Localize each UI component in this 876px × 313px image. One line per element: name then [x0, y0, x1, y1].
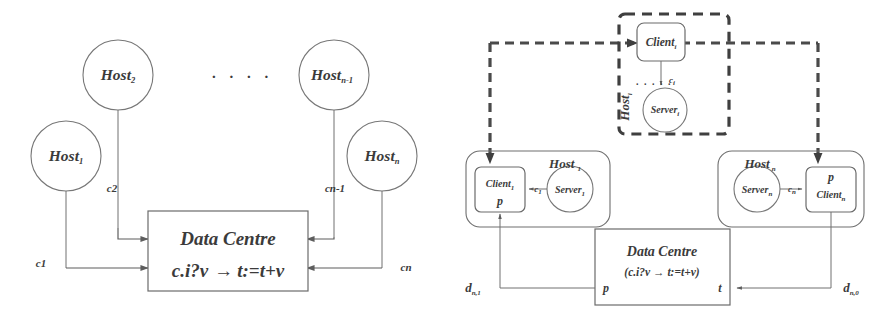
channel-c2-label: c2 — [107, 182, 118, 194]
c1-right-channel-label: c1 — [534, 184, 542, 196]
host-i-label: Hosti — [617, 93, 634, 121]
hosts-ellipsis: . . . . — [212, 65, 273, 81]
host-1-label: Host1 — [48, 147, 83, 166]
client-n-port-label: p — [827, 170, 834, 184]
host-2-label: Host2 — [100, 66, 136, 85]
host-i-ellipsis: . . . . . — [636, 76, 672, 87]
cn-right-channel-label: cn — [788, 184, 796, 196]
right-data-centre-body: (c.i?v → t:=t+v) — [624, 266, 700, 279]
d-right-label: dn,0 — [843, 280, 859, 297]
data-centre-port-p: p — [602, 281, 609, 295]
right-diagram-labels: Clienti . . . . . ci Serveri Hosti Host1… — [465, 36, 859, 297]
channel-cn-label: cn — [401, 261, 412, 273]
left-data-centre-title: Data Centre — [179, 228, 276, 249]
channel-cn-1-label: cn-1 — [325, 182, 345, 194]
diagram-canvas: Host1 Host2 Hostn-1 Hostn . . . . c1 c2 … — [0, 0, 876, 313]
c2-elbow-arrow — [118, 228, 148, 239]
host-n-label: Hostn — [364, 147, 400, 166]
left-data-centre-expression: c.i?v→t:=t+v — [172, 260, 285, 281]
cn-1-elbow-arrow — [307, 237, 334, 239]
channel-c1-label: c1 — [36, 257, 46, 269]
client-1-port-label: p — [496, 194, 503, 208]
figure-root: Host1 Host2 Hostn-1 Hostn . . . . c1 c2 … — [0, 0, 876, 313]
right-diagram-group — [466, 14, 864, 305]
d-left-label: dn,1 — [465, 280, 481, 297]
right-data-centre-title: Data Centre — [626, 244, 697, 259]
host-n-right-label: Hostn — [743, 156, 775, 173]
